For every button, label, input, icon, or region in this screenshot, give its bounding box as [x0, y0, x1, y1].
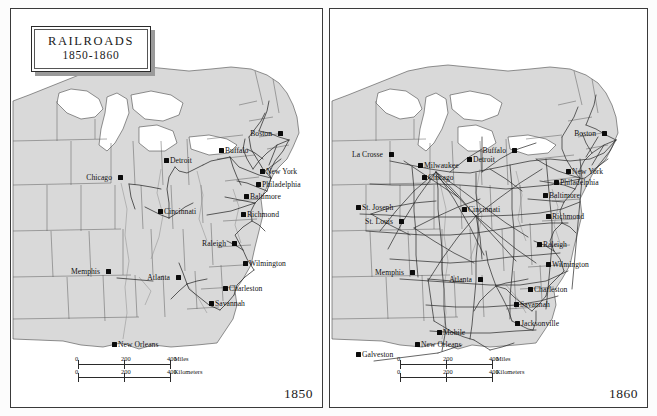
- city-label: Charleston: [534, 286, 567, 294]
- city-label: Wilmington: [249, 260, 286, 268]
- city-dot-icon: [232, 241, 237, 246]
- city-dot-icon: [478, 277, 483, 282]
- city-label: Chicago: [428, 174, 454, 182]
- city-dot-icon: [399, 219, 404, 224]
- city-dot-icon: [243, 261, 248, 266]
- city-label: Savannah: [520, 301, 550, 309]
- city-dot-icon: [566, 169, 571, 174]
- city-dot-icon: [219, 148, 224, 153]
- city-dot-icon: [462, 207, 467, 212]
- city-dot-icon: [543, 193, 548, 198]
- scale-tick-label: 0: [397, 355, 400, 362]
- scale-tick-label: 200: [121, 355, 131, 362]
- year-label-1850: 1850: [284, 386, 313, 402]
- city-label: Boston: [250, 130, 272, 138]
- city-label: Mobile: [443, 329, 465, 337]
- city-label: Buffalo: [483, 147, 506, 155]
- city-dot-icon: [415, 342, 420, 347]
- city-dot-icon: [260, 169, 265, 174]
- city-label: Milwaukee: [424, 162, 459, 170]
- city-dot-icon: [389, 152, 394, 157]
- city-label: Charleston: [229, 285, 262, 293]
- city-label: New Orleans: [421, 341, 461, 349]
- city-dot-icon: [418, 163, 423, 168]
- city-dot-icon: [515, 321, 520, 326]
- scale-tick-label: 0: [75, 355, 78, 362]
- city-label: New Orleans: [118, 341, 158, 349]
- scale-unit-label: Kilometers: [496, 368, 524, 375]
- city-label: St. Louis: [365, 218, 393, 226]
- city-dot-icon: [514, 302, 519, 307]
- year-label-1860: 1860: [609, 386, 638, 402]
- city-dot-icon: [546, 262, 551, 267]
- city-label: Wilmington: [552, 261, 589, 269]
- city-dot-icon: [537, 242, 542, 247]
- city-dot-icon: [554, 180, 559, 185]
- city-dot-icon: [528, 287, 533, 292]
- city-label: Raleigh: [543, 241, 567, 249]
- city-label: Atlanta: [147, 274, 170, 282]
- city-label: Richmond: [247, 211, 279, 219]
- city-label: Memphis: [71, 268, 100, 276]
- city-label: Raleigh: [202, 240, 226, 248]
- city-label: New York: [572, 168, 603, 176]
- scale-unit-label: Miles: [174, 355, 189, 362]
- city-dot-icon: [546, 214, 551, 219]
- city-dot-icon: [437, 330, 442, 335]
- city-label: Philadelphia: [560, 179, 599, 187]
- city-dot-icon: [356, 205, 361, 210]
- scale-tick-label: 0: [397, 368, 400, 375]
- map-title-years: 1850-1860: [48, 49, 134, 63]
- city-dot-icon: [278, 131, 283, 136]
- city-label: Buffalo: [225, 147, 248, 155]
- city-label: Richmond: [552, 213, 584, 221]
- map-figure: RAILROADS 1850-1860 1850: [0, 0, 657, 416]
- city-dot-icon: [209, 301, 214, 306]
- city-dot-icon: [106, 269, 111, 274]
- city-dot-icon: [158, 209, 163, 214]
- city-label: Savannah: [215, 300, 245, 308]
- city-label: Detroit: [170, 157, 192, 165]
- city-dot-icon: [118, 175, 123, 180]
- title-frame-inner: RAILROADS 1850-1860: [34, 29, 148, 69]
- city-label: Jacksonville: [521, 320, 559, 328]
- title-frame-outer: RAILROADS 1850-1860: [31, 26, 151, 72]
- city-dot-icon: [467, 157, 472, 162]
- city-label: Baltimore: [549, 192, 580, 200]
- map-title: RAILROADS: [48, 34, 134, 49]
- city-dot-icon: [164, 158, 169, 163]
- city-dot-icon: [256, 182, 261, 187]
- city-label: Chicago: [86, 174, 112, 182]
- city-label: St. Joseph: [362, 204, 393, 212]
- city-dot-icon: [176, 275, 181, 280]
- city-label: Cincinnati: [468, 206, 500, 214]
- scale-unit-label: Miles: [496, 355, 511, 362]
- scale-tick-label: 200: [443, 355, 453, 362]
- city-dot-icon: [244, 194, 249, 199]
- city-label: Detroit: [473, 156, 495, 164]
- city-dot-icon: [410, 270, 415, 275]
- city-label: New York: [266, 168, 297, 176]
- city-dot-icon: [356, 352, 361, 357]
- city-dot-icon: [112, 342, 117, 347]
- city-label: Memphis: [375, 269, 404, 277]
- city-dot-icon: [512, 148, 517, 153]
- city-dot-icon: [422, 175, 427, 180]
- city-label: Atlanta: [449, 276, 472, 284]
- scale-tick-label: 0: [75, 368, 78, 375]
- city-label: La Crosse: [352, 151, 383, 159]
- city-dot-icon: [602, 131, 607, 136]
- city-label: Boston: [574, 130, 596, 138]
- scale-unit-label: Kilometers: [174, 368, 202, 375]
- city-label: Galveston: [362, 351, 393, 359]
- scale-tick-label: 200: [121, 368, 131, 375]
- scale-tick-label: 200: [443, 368, 453, 375]
- city-dot-icon: [223, 286, 228, 291]
- city-label: Cincinnati: [164, 208, 196, 216]
- city-label: Philadelphia: [262, 181, 301, 189]
- city-label: Baltimore: [250, 193, 281, 201]
- title-cartouche: RAILROADS 1850-1860: [31, 26, 151, 72]
- city-dot-icon: [241, 212, 246, 217]
